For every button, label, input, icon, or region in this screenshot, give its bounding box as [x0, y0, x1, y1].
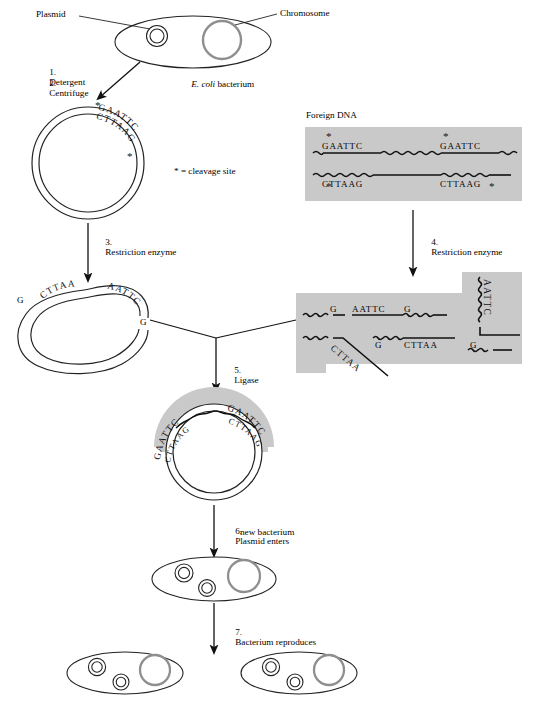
- ecoli-bacterium-transformed: [152, 557, 276, 601]
- step-2-text: Centrifuge: [49, 88, 88, 98]
- sequence-text-curved: GAATTC CTTAAG CTTAA AATTC GAATTC CTTAAG …: [38, 102, 268, 463]
- step-3-label: 3. Restriction enzyme: [96, 226, 176, 268]
- legend-cleavage-site: * = cleavage site: [174, 166, 236, 177]
- step-4-num: 4.: [431, 237, 438, 247]
- step-2-num: 2.: [49, 78, 56, 88]
- foreign-top-left-seq: GAATTC: [322, 141, 363, 151]
- step-7-text: Bacterium reproduces: [235, 637, 316, 647]
- foreign-bottom-left-seq: CTTAAG: [322, 179, 363, 189]
- step-3-text: Restriction enzyme: [105, 247, 176, 257]
- step-5-text: Ligase: [234, 375, 259, 385]
- foreign-bottom-right-seq: CTTAAG: [440, 179, 481, 189]
- fragment-vertical-aattc: AATTC: [482, 279, 492, 316]
- fragment-row1-g-right: G: [404, 304, 411, 314]
- svg-text:*: *: [127, 150, 133, 162]
- fragment-row1-aattc: AATTC: [352, 304, 386, 314]
- step-2-label: 2. Centrifuge: [40, 67, 88, 109]
- step-5-num: 5.: [234, 365, 241, 375]
- fragment-row1-g-left: G: [330, 304, 337, 314]
- step-4-label: 4. Restriction enzyme: [422, 226, 502, 268]
- step-6-label-line2: new bacterium: [240, 527, 294, 538]
- ligase-converging-lines: [150, 320, 296, 338]
- foreign-top-right-seq: GAATTC: [440, 141, 481, 151]
- cut-plasmid-right-g: G: [140, 317, 147, 327]
- ecoli-rest: bacterium: [215, 79, 254, 89]
- label-plasmid: Plasmid: [36, 9, 66, 20]
- step-4-text: Restriction enzyme: [431, 247, 502, 257]
- daughter-bacterium-left: [67, 652, 183, 694]
- svg-text:*: *: [95, 99, 101, 111]
- cut-plasmid-left-g: G: [17, 295, 24, 305]
- label-foreign-dna: Foreign DNA: [306, 110, 357, 121]
- step-3-num: 3.: [105, 237, 112, 247]
- step-5-label: 5. Ligase: [225, 354, 259, 396]
- ecoli-italic: E. coli: [191, 79, 215, 89]
- ecoli-bacterium-top: [79, 14, 277, 68]
- arrow-step-1-2: [100, 62, 140, 97]
- label-chromosome: Chromosome: [280, 8, 330, 19]
- step-6-text: Plasmid enters: [235, 536, 289, 546]
- fragment-row2-cttaa: CTTAA: [404, 340, 438, 350]
- figure-canvas: GAATTC CTTAAG CTTAA AATTC GAATTC CTTAAG …: [0, 0, 534, 706]
- fragment-row2-g-right: G: [470, 340, 477, 350]
- step-7-num: 7.: [235, 627, 242, 637]
- label-ecoli-bacterium: E. coli bacterium: [182, 68, 254, 100]
- fragment-row2-g-left: G: [375, 340, 382, 350]
- cut-plasmid-cttaa: CTTAA: [38, 279, 76, 301]
- svg-text:*: *: [489, 180, 495, 192]
- step-7-label: 7. Bacterium reproduces: [226, 616, 316, 658]
